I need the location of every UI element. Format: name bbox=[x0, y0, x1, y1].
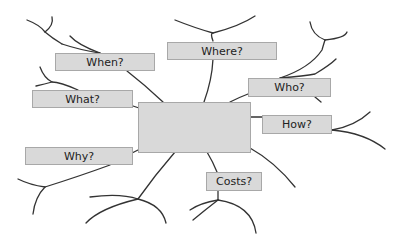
central-topic-box[interactable] bbox=[138, 102, 251, 153]
node-when[interactable]: When? bbox=[55, 53, 155, 71]
mind-map-canvas: When? Where? What? Who? How? Why? Costs? bbox=[0, 0, 404, 249]
node-who[interactable]: Who? bbox=[248, 78, 331, 97]
node-where[interactable]: Where? bbox=[167, 42, 277, 60]
node-what[interactable]: What? bbox=[32, 90, 133, 108]
node-how[interactable]: How? bbox=[262, 115, 332, 134]
node-costs[interactable]: Costs? bbox=[206, 172, 262, 191]
node-why[interactable]: Why? bbox=[25, 147, 133, 165]
